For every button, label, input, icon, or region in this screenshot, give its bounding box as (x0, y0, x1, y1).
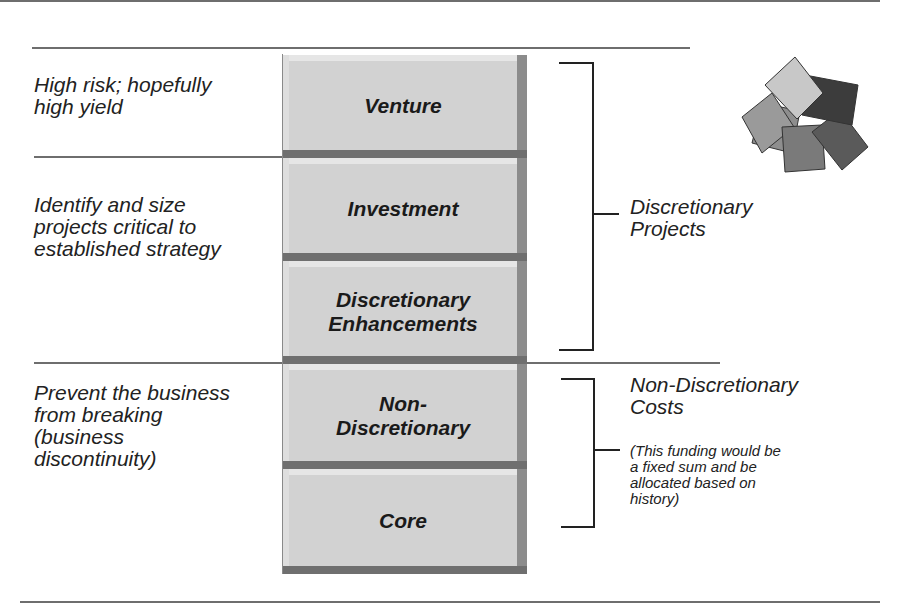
row-description-non-discretionary: Prevent the business from breaking (busi… (34, 382, 230, 470)
bracket-discretionary-tick (593, 213, 619, 215)
desc-line: from breaking (34, 404, 230, 426)
block-label: Enhancements (328, 312, 477, 336)
label-line: Discretionary (630, 196, 753, 218)
block-label: Discretionary (336, 416, 470, 440)
label-line: Costs (630, 396, 798, 418)
bracket-non-discretionary-tick (594, 449, 620, 451)
block-venture: Venture (283, 55, 527, 158)
block-label: Investment (348, 197, 459, 221)
desc-line: Identify and size (34, 194, 221, 216)
block-label: Venture (364, 94, 441, 118)
desc-line: Prevent the business (34, 382, 230, 404)
block-label: Non- (336, 392, 470, 416)
note-line: allocated based on (630, 475, 781, 491)
non-discretionary-costs-label: Non-Discretionary Costs (630, 374, 798, 418)
desc-line: (business (34, 426, 230, 448)
block-core: Core (283, 469, 527, 574)
discretionary-projects-label: Discretionary Projects (630, 196, 753, 240)
row-description-investment: Identify and size projects critical to e… (34, 194, 221, 260)
note-line: history) (630, 491, 781, 507)
desc-line: discontinuity) (34, 448, 230, 470)
label-line: Projects (630, 218, 753, 240)
block-label: Core (379, 509, 427, 533)
top-rule (0, 0, 880, 2)
funding-note: (This funding would be a fixed sum and b… (630, 443, 781, 507)
label-line: Non-Discretionary (630, 374, 798, 396)
block-non-discretionary: Non- Discretionary (283, 364, 527, 469)
desc-line: established strategy (34, 238, 221, 260)
desc-line: High risk; hopefully (34, 74, 211, 96)
bracket-non-discretionary (561, 378, 595, 528)
block-investment: Investment (283, 158, 527, 261)
block-discretionary-enhancements: Discretionary Enhancements (283, 261, 527, 364)
block-label: Discretionary (328, 288, 477, 312)
note-line: (This funding would be (630, 443, 781, 459)
header-rule (32, 47, 690, 49)
bracket-discretionary (559, 62, 594, 351)
scattered-tiles-logo-icon (740, 55, 870, 200)
desc-line: high yield (34, 96, 211, 118)
row-description-venture: High risk; hopefully high yield (34, 74, 211, 118)
note-line: a fixed sum and be (630, 459, 781, 475)
desc-line: projects critical to (34, 216, 221, 238)
row-divider-1 (34, 156, 284, 158)
bottom-rule (20, 601, 880, 603)
